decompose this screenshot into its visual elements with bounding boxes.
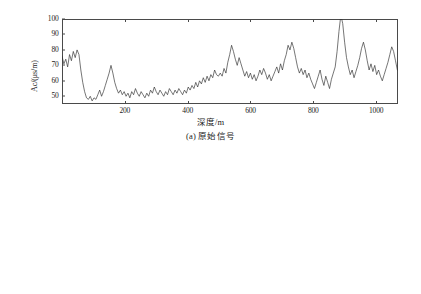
xtick-a-2: 600: [245, 104, 256, 115]
xtick-a-1: 400: [182, 104, 193, 115]
ytick-mark-a-1: [62, 34, 65, 35]
xtick-mark-top-a-1: [188, 19, 189, 22]
plot-area-a: 100 90 80 70 60 50 200 400 600: [62, 19, 398, 104]
xtick-mark-top-a-4: [376, 19, 377, 22]
xtick-mark-top-a-2: [250, 19, 251, 22]
ytick-mark-a-2: [62, 49, 65, 50]
y-axis-label-a: Ac/(μs/m): [30, 60, 39, 92]
caption-a: (a) 原始信号: [0, 129, 421, 141]
xtick-mark-top-a-3: [313, 19, 314, 22]
panel-original-signal: 100 90 80 70 60 50 200 400 600: [0, 0, 421, 147]
ytick-a-3: 70: [51, 62, 62, 70]
ytick-mark-a-4: [62, 80, 65, 81]
ytick-mark-a-5: [62, 96, 65, 97]
ytick-a-2: 80: [51, 46, 62, 54]
ytick-a-1: 90: [51, 31, 62, 39]
ytick-a-0: 100: [48, 15, 62, 23]
xtick-a-4: 1000: [369, 104, 383, 115]
figure-container: 100 90 80 70 60 50 200 400 600: [0, 0, 421, 294]
ytick-a-4: 60: [51, 77, 62, 85]
panel-denoised-signal: 90 80 70 60 50 40 200 400 600 8: [0, 147, 421, 294]
signal-plot-a: [62, 19, 398, 104]
ytick-mark-a-3: [62, 65, 65, 66]
ytick-mark-a-0: [62, 19, 65, 20]
xtick-a-3: 800: [308, 104, 319, 115]
x-axis-label-a: 深度/m: [0, 115, 421, 127]
xtick-mark-top-a-0: [125, 19, 126, 22]
xtick-a-0: 200: [120, 104, 131, 115]
ytick-a-5: 50: [51, 93, 62, 101]
